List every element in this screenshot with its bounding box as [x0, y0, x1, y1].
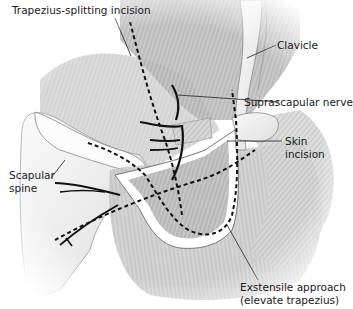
label-extensile-line1: Exstensile approach	[240, 281, 346, 294]
label-extensile-approach: Exstensile approach (elevate trapezius)	[240, 281, 346, 307]
label-suprascapular-nerve: Suprascapular nerve	[244, 96, 353, 109]
label-clavicle: Clavicle	[277, 39, 318, 52]
label-skin-incision-line1: Skin	[285, 135, 325, 148]
label-trapezius-splitting-incision: Trapezius-splitting incision	[12, 4, 151, 17]
label-scapular-spine: Scapular spine	[9, 169, 55, 195]
label-skin-incision-line2: incision	[285, 148, 325, 161]
label-extensile-line2: (elevate trapezius)	[240, 294, 346, 307]
label-scapular-spine-line2: spine	[9, 182, 55, 195]
label-scapular-spine-line1: Scapular	[9, 169, 55, 182]
label-skin-incision: Skin incision	[285, 135, 325, 161]
